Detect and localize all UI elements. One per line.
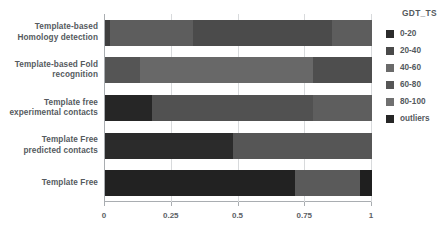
bar-segment [152, 95, 314, 121]
legend-label: 80-100 [400, 97, 426, 106]
stacked-bar-chart: Template-basedHomology detectionTemplate… [0, 0, 445, 239]
x-tick-mark [238, 202, 239, 206]
category-label: Template-based Foldrecognition [0, 60, 98, 81]
category-label-line: Template-based Fold [0, 60, 98, 71]
category-label-line: Template Free [0, 135, 98, 146]
bar-segment [105, 133, 233, 159]
bar-segment [295, 170, 360, 196]
legend-label: 40-60 [400, 63, 421, 72]
legend-item[interactable]: outliers [386, 110, 445, 127]
plot-area: 00.250.50.751 [104, 14, 372, 202]
bar-segment [233, 133, 372, 159]
legend-item[interactable]: 20-40 [386, 42, 445, 59]
x-tick-label: 0.25 [163, 211, 179, 220]
x-tick-mark [171, 202, 172, 206]
category-label: Template Free [0, 178, 98, 189]
category-label-line: Homology detection [0, 33, 98, 44]
category-label-line: Template Free [0, 178, 98, 189]
bar-segment [332, 20, 372, 46]
category-label-line: Template-based [0, 22, 98, 33]
category-label-line: experimental contacts [0, 108, 98, 119]
bar-segment [313, 95, 372, 121]
legend-title: GDT_TS [402, 8, 445, 18]
legend-swatch-icon [386, 81, 394, 89]
category-label: Template freeexperimental contacts [0, 98, 98, 119]
legend: GDT_TS 0-2020-4040-6060-8080-100outliers [386, 8, 445, 127]
bar-segment [110, 20, 193, 46]
x-tick-label: 1 [369, 211, 373, 220]
bar-segment [105, 95, 152, 121]
category-label-line: predicted contacts [0, 146, 98, 157]
legend-item[interactable]: 80-100 [386, 93, 445, 110]
bar-row [105, 57, 373, 83]
bar-segment [105, 170, 295, 196]
x-tick-mark [304, 202, 305, 206]
legend-swatch-icon [386, 115, 394, 123]
category-axis-labels: Template-basedHomology detectionTemplate… [0, 14, 98, 202]
bar-segment [140, 57, 314, 83]
legend-item[interactable]: 40-60 [386, 59, 445, 76]
legend-label: 20-40 [400, 46, 421, 55]
bar-segment [313, 57, 372, 83]
legend-label: 60-80 [400, 80, 421, 89]
bar-segment [105, 57, 140, 83]
legend-item[interactable]: 0-20 [386, 25, 445, 42]
legend-swatch-icon [386, 30, 394, 38]
legend-label: 0-20 [400, 29, 416, 38]
x-tick-mark [371, 202, 372, 206]
bar-row [105, 133, 373, 159]
legend-items: 0-2020-4040-6060-8080-100outliers [386, 25, 445, 127]
bar-segment [360, 170, 372, 196]
legend-swatch-icon [386, 47, 394, 55]
legend-item[interactable]: 60-80 [386, 76, 445, 93]
x-tick-label: 0 [102, 211, 106, 220]
category-label: Template-basedHomology detection [0, 22, 98, 43]
bar-row [105, 170, 373, 196]
x-tick-label: 0.5 [232, 211, 243, 220]
legend-swatch-icon [386, 64, 394, 72]
x-tick-label: 0.75 [296, 211, 312, 220]
x-tick-mark [104, 202, 105, 206]
category-label-line: recognition [0, 70, 98, 81]
category-label: Template Freepredicted contacts [0, 135, 98, 156]
bar-row [105, 95, 373, 121]
legend-label: outliers [400, 114, 430, 123]
legend-swatch-icon [386, 98, 394, 106]
category-label-line: Template free [0, 98, 98, 109]
bar-segment [193, 20, 332, 46]
bar-row [105, 20, 373, 46]
